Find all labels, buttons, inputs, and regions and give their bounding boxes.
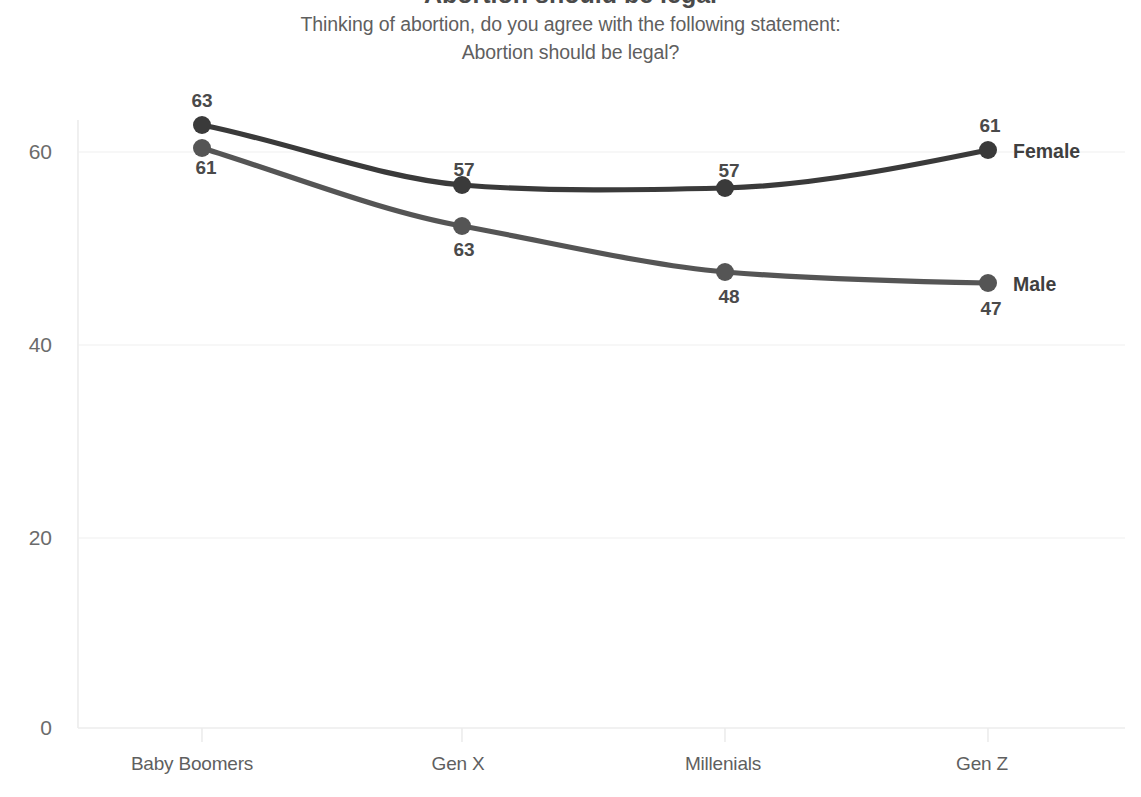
series-male [193, 139, 997, 292]
plot-area [0, 0, 1141, 797]
x-tick-label-baby-boomers: Baby Boomers [131, 753, 253, 775]
data-label-female-millenials: 57 [718, 160, 739, 182]
data-point-male-gen-z [979, 274, 997, 292]
data-point-female-gen-z [979, 141, 997, 159]
data-point-male-baby-boomers [193, 139, 211, 157]
y-tick-label-0: 0 [0, 716, 52, 740]
axis-lines [78, 120, 1125, 742]
series-label-female: Female [1013, 140, 1080, 163]
x-tick-label-millenials: Millenials [685, 753, 761, 775]
data-point-male-gen-x [453, 217, 471, 235]
data-point-female-baby-boomers [193, 116, 211, 134]
series-label-male: Male [1013, 273, 1056, 296]
data-label-female-gen-z: 61 [979, 115, 1000, 137]
x-tick-label-gen-x: Gen X [432, 753, 485, 775]
data-label-female-gen-x: 57 [453, 159, 474, 181]
data-label-male-gen-z: 47 [980, 298, 1001, 320]
x-tick-label-gen-z: Gen Z [956, 753, 1008, 775]
data-label-male-millenials: 48 [718, 286, 739, 308]
chart-container: Abortion should be legal Thinking of abo… [0, 0, 1141, 797]
y-tick-label-40: 40 [0, 333, 52, 357]
y-tick-label-20: 20 [0, 526, 52, 550]
gridlines [78, 152, 1125, 538]
data-label-male-gen-x: 63 [453, 239, 474, 261]
data-point-male-millenials [716, 263, 734, 281]
y-tick-label-60: 60 [0, 140, 52, 164]
data-label-male-baby-boomers: 61 [195, 157, 216, 179]
data-label-female-baby-boomers: 63 [191, 90, 212, 112]
